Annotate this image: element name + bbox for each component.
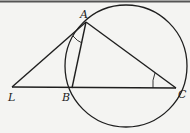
geometry-diagram: A L B C xyxy=(0,0,190,133)
angle-mark-A xyxy=(73,36,82,43)
label-C: C xyxy=(178,88,187,101)
segment-AC xyxy=(86,22,176,88)
angle-mark-C xyxy=(153,73,155,88)
label-A: A xyxy=(79,8,88,21)
label-B: B xyxy=(61,91,70,104)
circumcircle xyxy=(65,5,187,127)
label-L: L xyxy=(7,91,15,104)
segment-LC xyxy=(12,87,176,88)
